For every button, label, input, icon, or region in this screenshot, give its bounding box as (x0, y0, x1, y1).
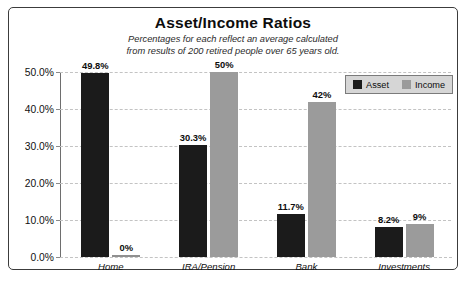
legend-item-income: Income (402, 80, 445, 90)
bar-value-label: 0% (120, 242, 134, 253)
chart-legend: Asset Income (345, 75, 453, 94)
bar-group: 8.2%9% (375, 72, 434, 257)
bar-group: 11.7%42% (277, 72, 336, 257)
legend-label-income: Income (415, 80, 445, 90)
y-axis-tick (56, 183, 60, 184)
bar-value-label: 11.7% (278, 201, 304, 212)
legend-label-asset: Asset (366, 80, 389, 90)
y-axis-tick-label: 20.0% (10, 178, 54, 189)
bar-income[interactable]: 50% (210, 72, 238, 257)
chart-title: Asset/Income Ratios (9, 14, 457, 32)
x-axis-category-label: Bank (295, 261, 317, 272)
y-axis-tick-label: 10.0% (10, 215, 54, 226)
bar-value-label: 49.8% (82, 60, 109, 71)
legend-swatch-asset-icon (353, 80, 362, 89)
chart-subtitle-line-1: Percentages for each reflect an average … (9, 34, 457, 46)
bar-group: 30.3%50% (179, 72, 238, 257)
bar-income[interactable]: 42% (308, 102, 336, 257)
y-axis-tick (56, 146, 60, 147)
bar-income[interactable]: 9% (406, 224, 434, 257)
x-axis-baseline (60, 257, 452, 258)
bar-asset[interactable]: 8.2% (375, 227, 403, 257)
legend-item-asset: Asset (353, 80, 389, 90)
y-axis-tick (56, 257, 60, 258)
y-axis-tick (56, 109, 60, 110)
bar-group: 49.8%0% (81, 72, 140, 257)
plot-area: 49.8%0%30.3%50%11.7%42%8.2%9% (60, 72, 451, 257)
x-axis-category-label: Home (98, 261, 124, 272)
y-axis-labels: 50.0%40.0%30.0%20.0%10.0%0.0% (9, 8, 54, 285)
y-axis-tick-label: 50.0% (10, 67, 54, 78)
bar-asset[interactable]: 30.3% (179, 145, 207, 257)
y-axis-tick-label: 0.0% (10, 252, 54, 263)
y-axis-tick (56, 72, 60, 73)
bar-value-label: 9% (413, 211, 427, 222)
chart-container: Asset/Income Ratios Percentages for each… (8, 7, 458, 270)
y-axis-tick (56, 220, 60, 221)
bar-asset[interactable]: 49.8% (81, 73, 109, 257)
bar-value-label: 8.2% (378, 214, 399, 225)
bar-asset[interactable]: 11.7% (277, 214, 305, 257)
legend-swatch-income-icon (402, 80, 411, 89)
x-axis-category-label: IRA/Pension (182, 261, 235, 272)
y-axis-tick-label: 30.0% (10, 141, 54, 152)
x-axis-category-label: Investments (378, 261, 430, 272)
bar-value-label: 42% (312, 89, 331, 100)
y-axis-tick-label: 40.0% (10, 104, 54, 115)
chart-subtitle: Percentages for each reflect an average … (9, 34, 457, 57)
chart-subtitle-line-2: from results of 200 retired people over … (9, 46, 457, 58)
bar-value-label: 30.3% (180, 132, 207, 143)
bar-value-label: 50% (215, 59, 234, 70)
